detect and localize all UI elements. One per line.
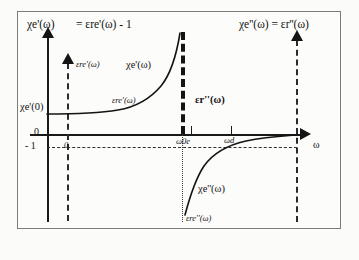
chi-e-imag-curve-label: χe''(ω) <box>198 184 225 195</box>
chi-e-real-curve-label: χe'(ω) <box>126 60 151 71</box>
x-axis-omega-label: ω <box>313 140 320 150</box>
title-right-chi-imag: χe''(ω) = εr''(ω) <box>239 19 309 31</box>
x-tick-omega-d-label: ωd <box>224 136 234 145</box>
y-tick-minus-one-label: - 1 <box>25 141 36 151</box>
eps-re-imag-curve-label: εre''(ω) <box>186 214 211 223</box>
chi-e-imag-curve-path <box>185 135 295 215</box>
y-tick-zero-label: 0 <box>34 127 39 137</box>
eps-re-real-arrow-label: εre'(ω) <box>76 60 100 69</box>
eps-r-imag-bold-label: εr''(ω) <box>195 95 225 106</box>
title-left-chi-real: χe'(ω) <box>27 19 55 31</box>
chi-e-real-zero-label: χe'(0) <box>20 102 43 113</box>
curves-layer <box>0 0 359 260</box>
origin-marker-label: 0 <box>64 141 68 150</box>
eps-re-real-curve-label: εre'(ω) <box>112 96 136 105</box>
x-tick-omega-0e-label: ω0e <box>176 137 190 146</box>
figure-container: χe'(ω) = εre'(ω) - 1 χe''(ω) = εr''(ω) ε… <box>0 0 359 260</box>
title-left-equation: = εre'(ω) - 1 <box>76 19 132 31</box>
